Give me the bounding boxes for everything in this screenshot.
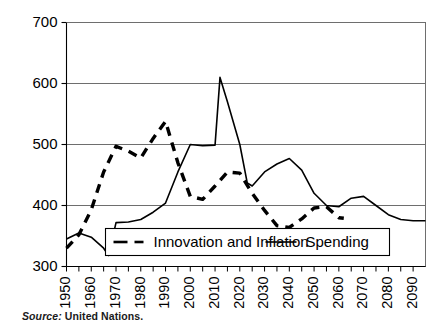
line-chart-plot: 3004005006007001950196019701980199020002…: [0, 0, 444, 336]
y-tick-label-700: 700: [32, 13, 57, 30]
legend-label-spending: Spending: [306, 233, 369, 250]
x-tick-label-2040: 2040: [280, 277, 296, 309]
x-tick-label-2050: 2050: [305, 277, 321, 309]
x-tick-label-1970: 1970: [107, 277, 123, 309]
x-axis-ticks: [67, 267, 414, 272]
x-tick-label-2070: 2070: [354, 277, 370, 309]
y-tick-label-500: 500: [32, 135, 57, 152]
x-tick-label-1990: 1990: [156, 277, 172, 309]
x-tick-label-2060: 2060: [330, 277, 346, 309]
x-tick-label-1960: 1960: [82, 277, 98, 309]
source-note: Source: United Nations.: [22, 310, 143, 322]
x-tick-label-1980: 1980: [132, 277, 148, 309]
source-value: United Nations.: [65, 310, 144, 322]
x-tick-label-2090: 2090: [404, 277, 420, 309]
source-label: Source:: [22, 310, 62, 322]
x-tick-label-2080: 2080: [379, 277, 395, 309]
y-tick-label-300: 300: [32, 257, 57, 274]
x-tick-label-2030: 2030: [255, 277, 271, 309]
y-axis-ticks: 300400500600700: [32, 13, 66, 274]
y-tick-label-600: 600: [32, 74, 57, 91]
x-tick-label-2010: 2010: [206, 277, 222, 309]
chart-figure: 3004005006007001950196019701980199020002…: [0, 0, 444, 336]
x-tick-label-2000: 2000: [181, 277, 197, 309]
x-tick-label-2020: 2020: [231, 277, 247, 309]
x-axis-labels: 1950196019701980199020002010202020302040…: [57, 277, 420, 309]
y-tick-label-400: 400: [32, 196, 57, 213]
chart-legend: Innovation and InflationSpending: [106, 229, 390, 256]
x-tick-label-1950: 1950: [57, 277, 73, 309]
